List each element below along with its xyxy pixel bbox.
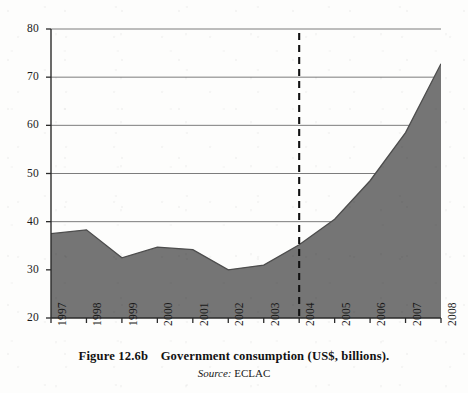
x-tick-label-1999: 1999: [127, 302, 139, 326]
x-tick-label-2006: 2006: [375, 302, 387, 326]
y-tick-label: 70: [9, 70, 39, 82]
y-tick-label: 80: [9, 22, 39, 34]
caption-source-line: Source: ECLAC: [0, 366, 468, 380]
x-tick-label-2000: 2000: [162, 302, 174, 326]
x-tick-label-1997: 1997: [56, 302, 68, 326]
y-tick-label: 20: [9, 311, 39, 323]
caption-source-label: Source:: [198, 367, 232, 379]
y-tick-label: 50: [9, 167, 39, 179]
x-tick-label-2002: 2002: [233, 302, 245, 326]
caption-source-name: ECLAC: [234, 367, 270, 379]
x-tick-label-2003: 2003: [269, 302, 281, 326]
area-chart-svg: [0, 0, 468, 345]
y-tick-label: 40: [9, 215, 39, 227]
x-tick-label-1998: 1998: [91, 302, 103, 326]
x-tick-label-2005: 2005: [340, 302, 352, 326]
x-tick-label-2008: 2008: [446, 302, 458, 326]
y-tick-label: 60: [9, 118, 39, 130]
figure-caption: Figure 12.6b Government consumption (US$…: [0, 349, 468, 380]
caption-title-line: Figure 12.6b Government consumption (US$…: [0, 349, 468, 365]
x-tick-label-2007: 2007: [411, 302, 423, 326]
x-tick-label-2001: 2001: [198, 302, 210, 326]
chart-area: 20304050607080 1997199819992000200120022…: [0, 0, 468, 345]
caption-figure-title: Government consumption (US$, billions).: [161, 349, 390, 363]
y-tick-label: 30: [9, 263, 39, 275]
y-axis-ticks: [46, 29, 51, 318]
caption-figure-label: Figure 12.6b: [79, 349, 148, 363]
x-tick-label-2004: 2004: [304, 302, 316, 326]
area-fill: [51, 64, 441, 318]
